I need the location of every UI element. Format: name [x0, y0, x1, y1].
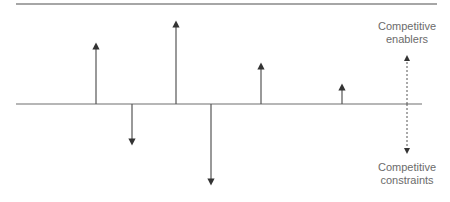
enablers-line1: Competitive [362, 20, 450, 33]
constraints-line1: Competitive [362, 161, 450, 174]
constraints-line2: constraints [362, 174, 450, 187]
label-competitive-enablers: Competitive enablers [362, 20, 450, 46]
enablers-line2: enablers [362, 33, 450, 46]
label-competitive-constraints: Competitive constraints [362, 161, 450, 187]
